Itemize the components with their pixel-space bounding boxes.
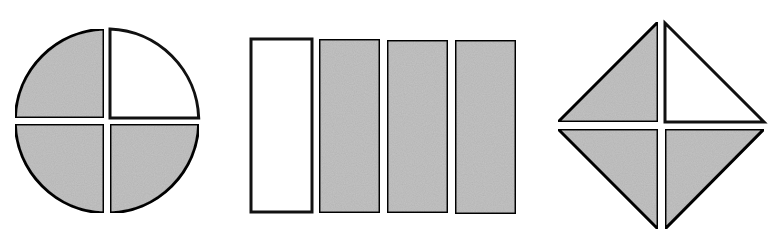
diamond-shape [558, 22, 764, 229]
diamond-part-top-right [665, 23, 764, 122]
rectangle-strip-4 [455, 40, 516, 214]
circle-shape [15, 29, 198, 213]
fraction-diagram [0, 0, 776, 242]
diamond-part-top-left [558, 22, 658, 122]
diamond-part-bottom-right [665, 129, 764, 229]
circle-quarter-bottom-right [110, 124, 199, 213]
rectangle-strip-1 [251, 39, 312, 212]
rectangle-shape [251, 39, 516, 214]
rectangle-strip-3 [387, 40, 448, 213]
rectangle-strip-2 [319, 39, 380, 213]
diamond-part-bottom-left [558, 129, 658, 229]
circle-quarter-bottom-left [15, 124, 104, 213]
circle-quarter-top-right [110, 29, 199, 118]
circle-quarter-top-left [15, 29, 104, 118]
